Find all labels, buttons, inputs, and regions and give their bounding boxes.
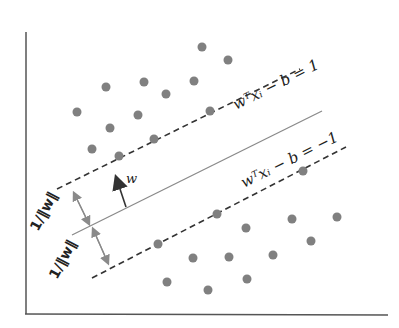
lower-class-point — [269, 251, 278, 260]
upper-class-point — [206, 107, 215, 116]
lower-class-point — [333, 213, 342, 222]
lower-class-point — [307, 237, 316, 246]
upper-class-point — [162, 90, 171, 99]
lower-class-point — [189, 254, 198, 263]
upper-class-point — [140, 78, 149, 87]
normal-vector-label: w — [126, 171, 137, 186]
upper-class-point — [224, 56, 233, 65]
lower-class-point — [299, 167, 308, 176]
upper-class-point — [190, 77, 199, 86]
upper-class-points — [73, 43, 233, 161]
lower-distance-label: 1/‖w‖ — [46, 237, 81, 282]
lower-class-point — [288, 215, 297, 224]
x-axis — [25, 314, 388, 315]
upper-class-point — [150, 135, 159, 144]
lower-class-point — [243, 275, 252, 284]
upper-class-point — [73, 108, 82, 117]
lower-class-point — [163, 278, 172, 287]
upper-distance-label: 1/‖w‖ — [27, 189, 62, 234]
lower-class-point — [213, 210, 222, 219]
upper-class-point — [102, 83, 111, 92]
lower-class-point — [225, 253, 234, 262]
normal-vector-arrow — [117, 180, 126, 207]
lower-class-point — [204, 286, 213, 295]
upper-class-point — [88, 145, 97, 154]
upper-class-point — [134, 111, 143, 120]
lower-class-point — [242, 224, 251, 233]
upper-class-point — [198, 43, 207, 52]
upper-margin-equation: wᵀxᵢ − b = 1 — [230, 56, 322, 114]
lower-margin-equation: wᵀxᵢ − b = −1 — [238, 128, 341, 192]
lower-distance-arrow-back — [93, 229, 108, 263]
upper-class-point — [115, 152, 124, 161]
upper-distance-arrow-back — [74, 193, 89, 224]
lower-class-point — [154, 240, 163, 249]
svm-diagram: w 1/‖w‖ 1/‖w‖ wᵀxᵢ − b = 1 wᵀxᵢ − b = −1 — [0, 0, 399, 328]
upper-class-point — [106, 124, 115, 133]
diagram-canvas: w 1/‖w‖ 1/‖w‖ wᵀxᵢ − b = 1 wᵀxᵢ − b = −1 — [0, 0, 399, 328]
